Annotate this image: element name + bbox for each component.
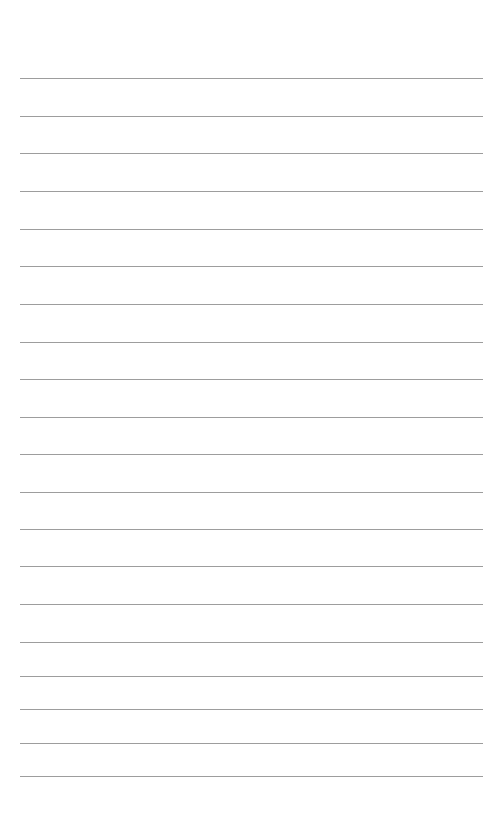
ruled-line xyxy=(20,229,483,230)
ruled-line xyxy=(20,153,483,154)
ruled-line xyxy=(20,78,483,79)
ruled-line xyxy=(20,709,483,710)
ruled-line xyxy=(20,454,483,455)
ruled-line xyxy=(20,776,483,777)
ruled-line xyxy=(20,529,483,530)
ruled-line xyxy=(20,379,483,380)
ruled-line xyxy=(20,604,483,605)
ruled-line xyxy=(20,417,483,418)
ruled-line xyxy=(20,566,483,567)
ruled-line xyxy=(20,116,483,117)
ruled-line xyxy=(20,304,483,305)
ruled-line xyxy=(20,191,483,192)
ruled-line xyxy=(20,676,483,677)
lined-paper-page xyxy=(0,0,485,840)
ruled-line xyxy=(20,743,483,744)
ruled-line xyxy=(20,642,483,643)
ruled-line xyxy=(20,342,483,343)
ruled-line xyxy=(20,492,483,493)
ruled-line xyxy=(20,266,483,267)
